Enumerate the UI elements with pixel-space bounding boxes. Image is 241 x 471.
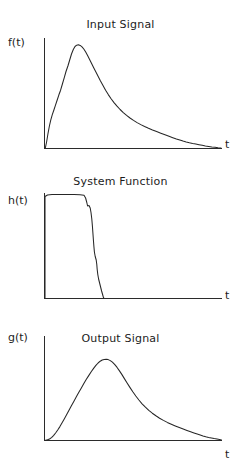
panel-input-signal: Input Signal f(t) t — [0, 0, 241, 157]
panel-output-signal: Output Signal g(t) t — [0, 314, 241, 471]
curve-system-function — [45, 195, 104, 299]
plot-area-output — [0, 314, 241, 471]
curve-output-signal — [46, 359, 222, 440]
plot-area-input — [0, 0, 241, 157]
curve-input-signal — [45, 45, 221, 148]
convolution-figure: Input Signal f(t) t System Function h(t)… — [0, 0, 241, 471]
plot-area-system — [0, 157, 241, 314]
panel-system-function: System Function h(t) t — [0, 157, 241, 314]
